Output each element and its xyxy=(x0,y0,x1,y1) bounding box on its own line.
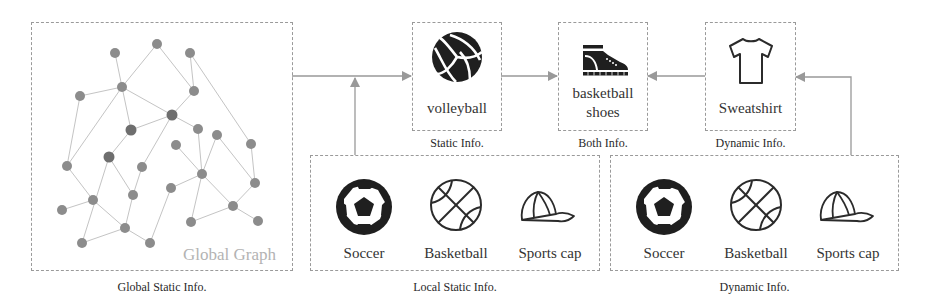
global-graph-label: Global Graph xyxy=(183,245,276,265)
cap-icon xyxy=(817,188,877,228)
global-static-caption: Global Static Info. xyxy=(31,280,293,295)
cap-icon xyxy=(518,188,578,228)
local-sports-cap-label: Sports cap xyxy=(508,244,592,263)
basketball-shoes-label: basketball shoes xyxy=(558,84,648,122)
basketball-icon xyxy=(428,177,484,233)
dynamic-info-top-caption: Dynamic Info. xyxy=(705,136,796,151)
sneaker-icon xyxy=(580,40,630,80)
basketball-icon xyxy=(728,177,784,233)
dynamic-soccer-label: Soccer xyxy=(624,244,704,263)
volleyball-icon xyxy=(430,30,484,84)
dynamic-basketball-label: Basketball xyxy=(715,244,797,263)
sweatshirt-label: Sweatshirt xyxy=(705,99,796,118)
basketball-shoes-label-line2: shoes xyxy=(558,103,648,122)
static-info-caption: Static Info. xyxy=(412,136,502,151)
tshirt-icon xyxy=(725,35,777,87)
local-soccer-label: Soccer xyxy=(324,244,404,263)
local-static-caption: Local Static Info. xyxy=(310,280,600,295)
soccer-ball-icon xyxy=(334,177,394,237)
dynamic-info-caption: Dynamic Info. xyxy=(610,280,899,295)
local-basketball-label: Basketball xyxy=(415,244,497,263)
global-graph-network xyxy=(0,0,300,280)
basketball-shoes-label-line1: basketball xyxy=(558,84,648,103)
both-info-caption: Both Info. xyxy=(558,136,648,151)
volleyball-label: volleyball xyxy=(412,99,502,118)
dynamic-sports-cap-label: Sports cap xyxy=(806,244,890,263)
soccer-ball-icon xyxy=(634,177,694,237)
